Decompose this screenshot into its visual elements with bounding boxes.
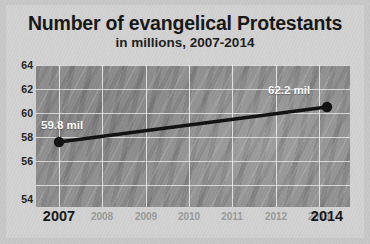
- y-axis-tick: 60: [7, 108, 33, 119]
- x-axis-tick-2014: 2014: [303, 209, 351, 224]
- chart-title: Number of evangelical Protestants: [6, 12, 364, 35]
- chart-card: Number of evangelical Protestants in mil…: [6, 5, 364, 238]
- y-axis-tick: 58: [7, 132, 33, 143]
- y-axis-tick: 54: [7, 194, 33, 205]
- x-axis-tick-2011: 2011: [210, 209, 254, 224]
- y-axis: 64 62 60 58 56 54: [6, 65, 33, 207]
- x-axis-tick-2010: 2010: [167, 209, 211, 224]
- x-axis-tick-2008: 2008: [80, 209, 124, 224]
- chart-screenshot: Number of evangelical Protestants in mil…: [0, 0, 370, 244]
- y-axis-tick: 62: [7, 84, 33, 95]
- chart-title-block: Number of evangelical Protestants in mil…: [6, 12, 364, 51]
- data-point-marker-2007: [54, 137, 64, 147]
- data-point-marker-2014: [322, 102, 332, 112]
- x-axis-tick-2007: 2007: [35, 209, 83, 224]
- y-axis-tick: 64: [7, 60, 33, 71]
- data-label-2014: 62.2 mil: [268, 84, 310, 96]
- plot-area: 59.8 mil 62.2 mil: [36, 65, 350, 207]
- series-line-segment: [59, 107, 327, 142]
- chart-subtitle: in millions, 2007-2014: [6, 35, 364, 51]
- y-axis-tick: 56: [7, 156, 33, 167]
- data-label-2007: 59.8 mil: [41, 119, 83, 131]
- x-axis-tick-2012: 2012: [254, 209, 298, 224]
- x-axis-tick-2009: 2009: [124, 209, 168, 224]
